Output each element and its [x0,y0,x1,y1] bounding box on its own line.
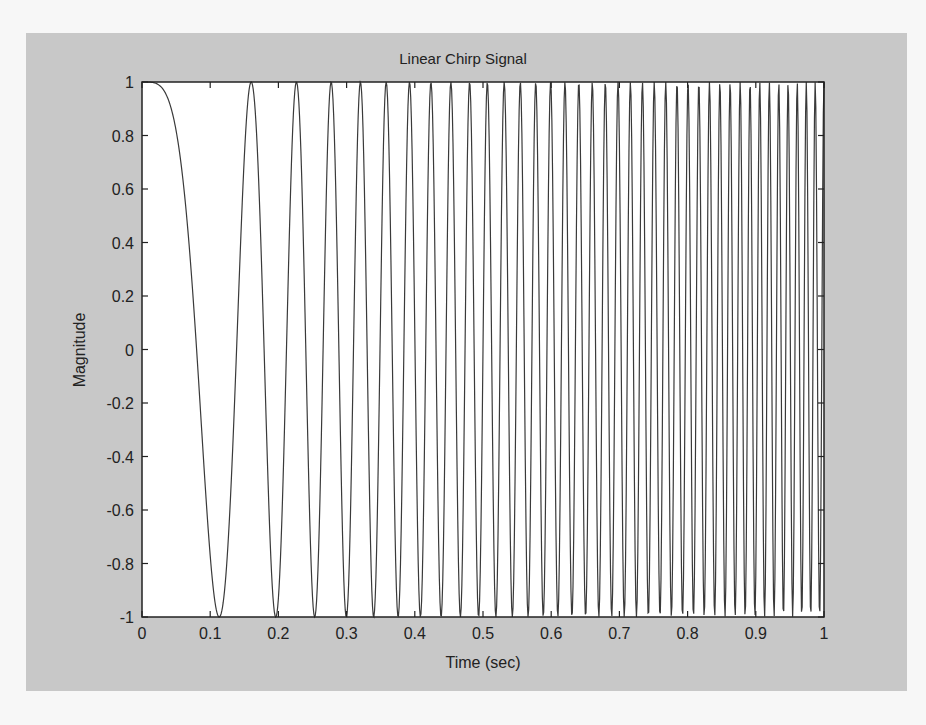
x-tick-label: 0.4 [404,625,426,642]
y-tick-label: 0.2 [112,288,134,305]
x-tick-label: 0.9 [745,625,767,642]
y-tick-label: 1 [125,74,134,91]
x-tick-label: 0.8 [676,625,698,642]
x-tick-label: 0.6 [540,625,562,642]
y-tick-label: -1 [120,609,134,626]
y-tick-label: 0 [125,342,134,359]
x-tick-label: 0.7 [608,625,630,642]
x-tick-label: 0.2 [267,625,289,642]
y-tick-label: 0.6 [112,181,134,198]
y-tick-label: -0.8 [106,556,134,573]
x-tick-label: 0.5 [472,625,494,642]
x-tick-label: 0 [138,625,147,642]
y-tick-label: 0.4 [112,235,134,252]
x-tick-label: 0.1 [199,625,221,642]
y-tick-label: -0.6 [106,502,134,519]
x-tick-label: 0.3 [335,625,357,642]
y-tick-label: -0.4 [106,449,134,466]
y-tick-label: -0.2 [106,395,134,412]
y-tick-label: 0.8 [112,128,134,145]
plot-area: 00.10.20.30.40.50.60.70.80.9110.80.60.40… [0,0,926,725]
x-tick-label: 1 [820,625,829,642]
